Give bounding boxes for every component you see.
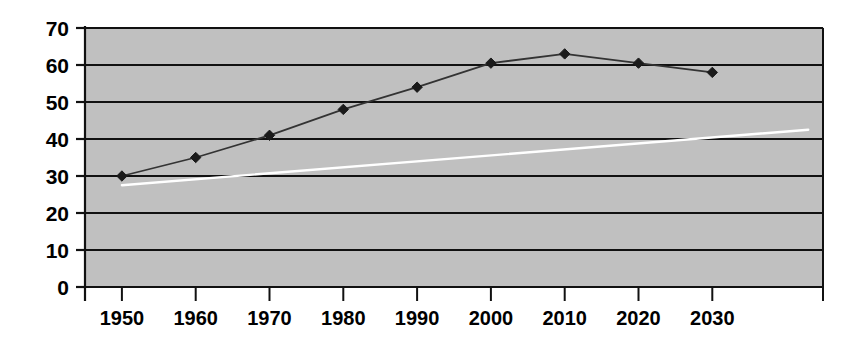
x-axis-label-1980: 1980 bbox=[321, 307, 366, 329]
y-axis-label-50: 50 bbox=[46, 91, 69, 114]
chart-container: 010203040506070 195019601970198019902000… bbox=[0, 0, 853, 342]
y-axis-label-70: 70 bbox=[46, 17, 69, 40]
x-axis-label-2010: 2010 bbox=[542, 307, 587, 329]
x-axis-label-1990: 1990 bbox=[395, 307, 440, 329]
y-axis-label-30: 30 bbox=[46, 165, 69, 188]
x-axis-tick-labels: 195019601970198019902000201020202030 bbox=[100, 307, 735, 329]
x-axis-label-1950: 1950 bbox=[100, 307, 145, 329]
x-axis-label-2020: 2020 bbox=[616, 307, 661, 329]
x-axis-label-2000: 2000 bbox=[469, 307, 514, 329]
y-axis-label-0: 0 bbox=[57, 276, 69, 299]
x-axis-label-1970: 1970 bbox=[247, 307, 292, 329]
y-axis-label-10: 10 bbox=[46, 239, 69, 262]
y-axis-label-40: 40 bbox=[46, 128, 69, 151]
x-axis-label-1960: 1960 bbox=[173, 307, 218, 329]
x-axis-label-2030: 2030 bbox=[690, 307, 735, 329]
y-axis-label-20: 20 bbox=[46, 202, 69, 225]
line-chart: 010203040506070 195019601970198019902000… bbox=[0, 0, 853, 342]
y-axis-label-60: 60 bbox=[46, 54, 69, 77]
